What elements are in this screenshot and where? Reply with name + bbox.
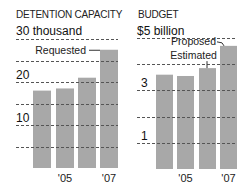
detention-bar-1 [33,91,51,168]
budget-bar-1 [156,75,173,169]
detention-bar-2 [56,88,74,168]
detention-x-tick-label: '05 [58,172,72,184]
budget-chart-title: BUDGET [138,9,179,20]
budget-bar-2 [177,76,194,169]
detention-y-tick-label: 20 [16,68,30,82]
proposed-leader-line [217,42,224,46]
detention-bar-3 [78,78,96,168]
budget-x-tick-label: '07 [221,172,235,184]
detention-chart-title: DETENTION CAPACITY [16,9,123,20]
charts-figure: DETENTION CAPACITY 30 thousand BUDGET $5… [0,0,250,191]
requested-annotation: Requested [35,44,86,56]
budget-bar-3 [199,68,216,169]
detention-plot: 1020'05'07Requested [16,40,118,185]
proposed-annotation: Proposed [171,35,216,47]
budget-y-tick-label: 1 [141,129,148,143]
budget-plot: 13'05'07EstimatedProposed [137,35,237,184]
budget-y-tick-label: 3 [141,76,148,90]
detention-unit-label: 30 thousand [16,24,82,38]
detention-x-tick-label: '07 [102,172,116,184]
detention-y-tick-label: 10 [16,111,30,125]
estimated-annotation: Estimated [170,49,217,61]
budget-x-tick-label: '05 [178,172,192,184]
detention-bar-4 [100,50,118,168]
